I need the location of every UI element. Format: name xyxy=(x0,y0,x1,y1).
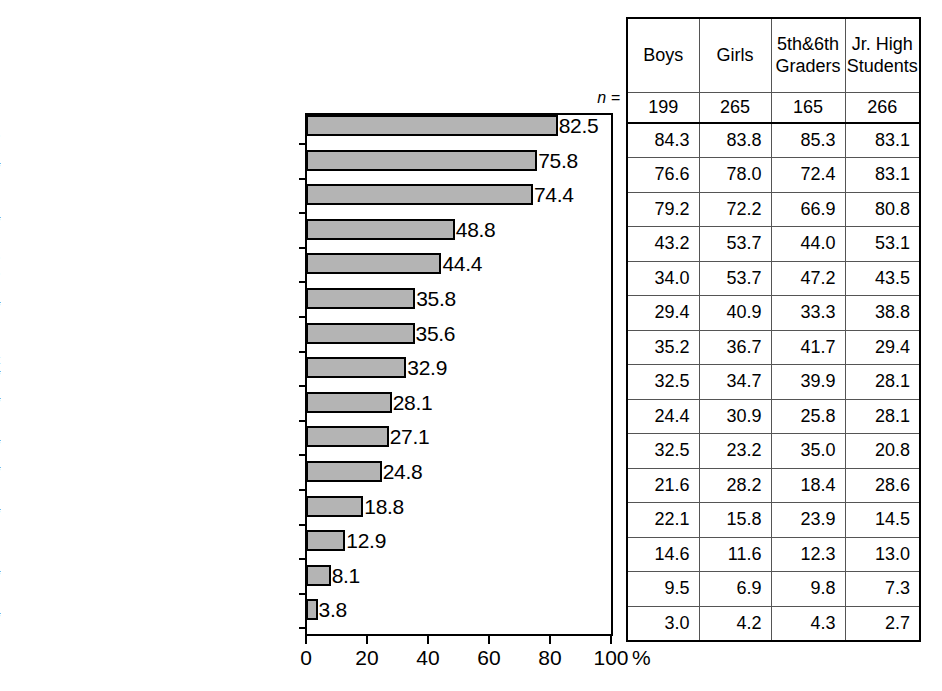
chart-row: The cost of keitai is a concern74.4 xyxy=(0,184,625,219)
bar-value-label: 82.5 xyxy=(559,115,599,136)
table-cell: 28.1 xyxy=(845,399,920,434)
y-axis-tick xyxy=(299,247,306,249)
table-row: 32.523.235.020.8 xyxy=(627,434,920,469)
bar xyxy=(306,426,389,447)
table-cell: 72.4 xyxy=(771,158,845,193)
figure-root: I think keitai must not beused on the tr… xyxy=(0,0,942,691)
table-cell: 43.5 xyxy=(845,261,920,296)
table-cell: 6.9 xyxy=(699,572,771,607)
x-axis-tick xyxy=(549,636,551,644)
table-cell: 32.5 xyxy=(627,365,699,400)
n-value-girls: 265 xyxy=(699,92,771,123)
table-cell: 83.1 xyxy=(845,158,920,193)
table-cell: 79.2 xyxy=(627,192,699,227)
table-cell: 21.6 xyxy=(627,468,699,503)
y-axis-tick xyxy=(299,316,306,318)
column-header-graders: 5th&6th Graders xyxy=(771,18,845,92)
bar xyxy=(306,461,382,482)
bar-value-label: 74.4 xyxy=(534,184,574,205)
column-header-boys: Boys xyxy=(627,18,699,92)
table-row: 29.440.933.338.8 xyxy=(627,296,920,331)
table-row: 35.236.741.729.4 xyxy=(627,330,920,365)
table-cell: 28.6 xyxy=(845,468,920,503)
column-header-jrhigh-line1: Jr. High xyxy=(846,33,920,55)
table-row: 79.272.266.980.8 xyxy=(627,192,920,227)
table-row: 32.534.739.928.1 xyxy=(627,365,920,400)
n-value-graders: 165 xyxy=(771,92,845,123)
chart-row: It makes me happy to think that I will a… xyxy=(0,253,625,288)
bar xyxy=(306,357,406,378)
x-axis-tick xyxy=(305,636,307,644)
table-cell: 34.7 xyxy=(699,365,771,400)
table-cell: 11.6 xyxy=(699,537,771,572)
table-cell: 35.0 xyxy=(771,434,845,469)
chart-row: I think that there are rules for when an… xyxy=(0,150,625,185)
chart-row: I always feel connected to somebody with… xyxy=(0,392,625,427)
x-axis-tick xyxy=(427,636,429,644)
table-cell: 36.7 xyxy=(699,330,771,365)
table-cell: 13.0 xyxy=(845,537,920,572)
bar-value-label: 28.1 xyxy=(393,392,433,413)
y-axis-tick xyxy=(299,489,306,491)
table-row: 21.628.218.428.6 xyxy=(627,468,920,503)
chart-row: I feel self-conscious when carrying keit… xyxy=(0,565,625,600)
table-cell: 53.7 xyxy=(699,227,771,262)
y-axis-tick xyxy=(299,558,306,560)
table-cell: 9.8 xyxy=(771,572,845,607)
table-cell: 44.0 xyxy=(771,227,845,262)
y-axis-tick xyxy=(299,178,306,180)
column-header-boys-line1: Boys xyxy=(628,44,699,66)
bar-value-label: 8.1 xyxy=(332,565,360,586)
table-cell: 15.8 xyxy=(699,503,771,538)
table-cell: 30.9 xyxy=(699,399,771,434)
table-cell: 14.5 xyxy=(845,503,920,538)
column-header-jrhigh-line2: Students xyxy=(846,55,920,77)
bar xyxy=(306,219,455,240)
table-cell: 23.9 xyxy=(771,503,845,538)
table-cell: 38.8 xyxy=(845,296,920,331)
table-row: 22.115.823.914.5 xyxy=(627,503,920,538)
table-row: 76.678.072.483.1 xyxy=(627,158,920,193)
table-row: 43.253.744.053.1 xyxy=(627,227,920,262)
table-cell: 53.7 xyxy=(699,261,771,296)
table-cell: 53.1 xyxy=(845,227,920,262)
table-cell: 39.9 xyxy=(771,365,845,400)
table-cell: 4.3 xyxy=(771,606,845,641)
table-cell: 78.0 xyxy=(699,158,771,193)
y-axis-tick xyxy=(299,593,306,595)
table-cell: 20.8 xyxy=(845,434,920,469)
bar xyxy=(306,115,558,136)
table-cell: 25.8 xyxy=(771,399,845,434)
table-cell: 9.5 xyxy=(627,572,699,607)
column-header-jrhigh: Jr. High Students xyxy=(845,18,920,92)
table-cell: 28.1 xyxy=(845,365,920,400)
bar-value-label: 75.8 xyxy=(538,150,578,171)
table-cell: 83.8 xyxy=(699,123,771,158)
bar xyxy=(306,253,441,274)
table-cell: 33.3 xyxy=(771,296,845,331)
table-cell: 23.2 xyxy=(699,434,771,469)
bar-value-label: 18.8 xyxy=(364,496,404,517)
y-axis-tick xyxy=(299,143,306,145)
column-header-girls-line1: Girls xyxy=(700,44,771,66)
bar-value-label: 35.6 xyxy=(416,323,456,344)
table-row: 3.04.24.32.7 xyxy=(627,606,920,641)
table-cell: 12.3 xyxy=(771,537,845,572)
chart-row: I can keep secrets from my parents if I … xyxy=(0,461,625,496)
y-axis-tick xyxy=(299,281,306,283)
column-header-graders-line2: Graders xyxy=(772,55,845,77)
y-axis-tick xyxy=(299,351,306,353)
y-axis-tick xyxy=(299,454,306,456)
table-cell: 47.2 xyxy=(771,261,845,296)
y-axis-tick xyxy=(299,212,306,214)
column-header-girls: Girls xyxy=(699,18,771,92)
table-cell: 34.0 xyxy=(627,261,699,296)
bar xyxy=(306,150,537,171)
chart-row: I worry that keitai may be bad for my he… xyxy=(0,530,625,565)
table-cell: 4.2 xyxy=(699,606,771,641)
chart-row: It will make me less fearful to be out a… xyxy=(0,288,625,323)
bar xyxy=(306,599,318,620)
chart-row: I might be calling my friends withouthes… xyxy=(0,357,625,392)
data-table: Boys Girls 5th&6th Graders Jr. High Stud… xyxy=(626,17,921,642)
table-header-row: Boys Girls 5th&6th Graders Jr. High Stud… xyxy=(627,18,920,92)
